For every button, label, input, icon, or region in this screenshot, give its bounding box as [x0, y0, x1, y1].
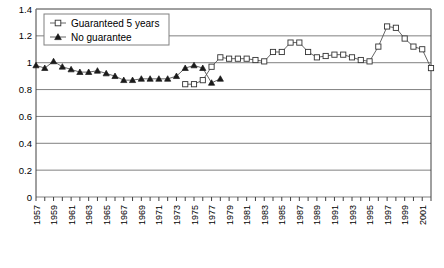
x-axis-tick-label: 1971 [154, 205, 164, 225]
x-axis-tick-label: 1957 [32, 205, 42, 225]
no-guarantee-marker [94, 68, 100, 74]
no-guarantee-marker [50, 58, 56, 64]
x-axis-tick-label: 2001 [418, 205, 428, 225]
guaranteed-5-years-marker [341, 52, 346, 57]
line-chart: 00.20.40.60.811.21.419571959196119631965… [0, 0, 444, 268]
guaranteed-5-years-marker [385, 24, 390, 29]
guaranteed-5-years-marker [358, 57, 363, 62]
guaranteed-5-years-marker [393, 25, 398, 30]
guaranteed-5-years-marker [262, 59, 267, 64]
x-axis-tick-label: 1973 [172, 205, 182, 225]
guaranteed-5-years-marker [209, 64, 214, 69]
guaranteed-5-years-marker [297, 40, 302, 45]
guaranteed-5-years-marker [306, 49, 311, 54]
guaranteed-5-years-marker [244, 56, 249, 61]
legend-label: Guaranteed 5 years [71, 18, 159, 29]
x-axis-tick-label: 1997 [383, 205, 393, 225]
legend-label: No guarantee [71, 32, 132, 43]
y-axis-tick-label: 0.4 [19, 138, 32, 149]
guaranteed-5-years-marker [420, 47, 425, 52]
guaranteed-5-years-marker [218, 55, 223, 60]
x-axis-tick-label: 1965 [102, 205, 112, 225]
x-axis-tick-label: 1987 [295, 205, 305, 225]
y-axis-tick-label: 1.4 [19, 4, 32, 15]
guaranteed-5-years-marker [279, 49, 284, 54]
y-axis-tick-label: 0 [27, 192, 32, 203]
guaranteed-5-years-marker [332, 52, 337, 57]
guaranteed-5-years-marker [288, 40, 293, 45]
no-guarantee-marker [208, 80, 214, 86]
no-guarantee-marker [59, 64, 65, 70]
guaranteed-5-years-marker [200, 78, 205, 83]
x-axis-tick-label: 1967 [119, 205, 129, 225]
x-axis-tick-label: 1979 [225, 205, 235, 225]
guaranteed-5-years-marker [253, 57, 258, 62]
x-axis-tick-label: 1981 [242, 205, 252, 225]
guaranteed-5-years-marker [367, 59, 372, 64]
guaranteed-5-years-marker [349, 55, 354, 60]
x-axis-tick-label: 1995 [365, 205, 375, 225]
x-axis-tick-label: 1991 [330, 205, 340, 225]
x-axis-tick-label: 1961 [67, 205, 77, 225]
y-axis-tick-label: 0.2 [19, 165, 32, 176]
guaranteed-5-years-marker [235, 56, 240, 61]
guaranteed-5-years-marker [411, 44, 416, 49]
guaranteed-5-years-marker [376, 44, 381, 49]
chart-container: 00.20.40.60.811.21.419571959196119631965… [0, 0, 444, 268]
x-axis-tick-label: 1975 [190, 205, 200, 225]
x-axis-tick-label: 1963 [84, 205, 94, 225]
x-axis-tick-label: 1983 [260, 205, 270, 225]
y-axis-tick-label: 1.2 [19, 30, 32, 41]
y-axis-tick-label: 0.6 [19, 111, 32, 122]
x-axis-tick-label: 1969 [137, 205, 147, 225]
guaranteed-5-years-marker [323, 53, 328, 58]
guaranteed-5-years-marker [402, 36, 407, 41]
y-axis-tick-label: 1 [27, 57, 32, 68]
x-axis-tick-label: 1959 [49, 205, 59, 225]
x-axis-tick-label: 1993 [348, 205, 358, 225]
guaranteed-5-years-marker [314, 55, 319, 60]
x-axis-tick-label: 1999 [400, 205, 410, 225]
y-axis-tick-label: 0.8 [19, 84, 32, 95]
guaranteed-5-years-marker [270, 49, 275, 54]
guaranteed-5-years-marker [183, 82, 188, 87]
guaranteed-5-years-marker [227, 56, 232, 61]
x-axis-tick-label: 1977 [207, 205, 217, 225]
legend-square-icon [55, 20, 61, 26]
no-guarantee-marker [217, 76, 223, 82]
x-axis-tick-label: 1989 [312, 205, 322, 225]
guaranteed-5-years-marker [428, 65, 433, 70]
x-axis-tick-label: 1985 [277, 205, 287, 225]
guaranteed-5-years-marker [191, 82, 196, 87]
